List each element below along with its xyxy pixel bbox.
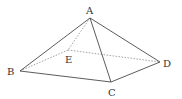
edge-ae xyxy=(68,18,90,50)
edge-ac xyxy=(90,18,111,82)
edge-ed xyxy=(68,50,160,62)
edge-ab xyxy=(20,18,90,71)
edge-cd xyxy=(111,62,160,82)
pyramid-diagram: A B C D E xyxy=(0,0,182,99)
visible-edges xyxy=(20,18,160,82)
label-d: D xyxy=(163,58,171,69)
edge-ad xyxy=(90,18,160,62)
label-e: E xyxy=(65,54,72,65)
label-c: C xyxy=(108,87,116,98)
pyramid-figure: A B C D E xyxy=(0,0,182,99)
edge-bc xyxy=(20,71,111,82)
label-a: A xyxy=(85,5,94,16)
hidden-edges xyxy=(20,18,160,71)
label-b: B xyxy=(7,66,14,77)
